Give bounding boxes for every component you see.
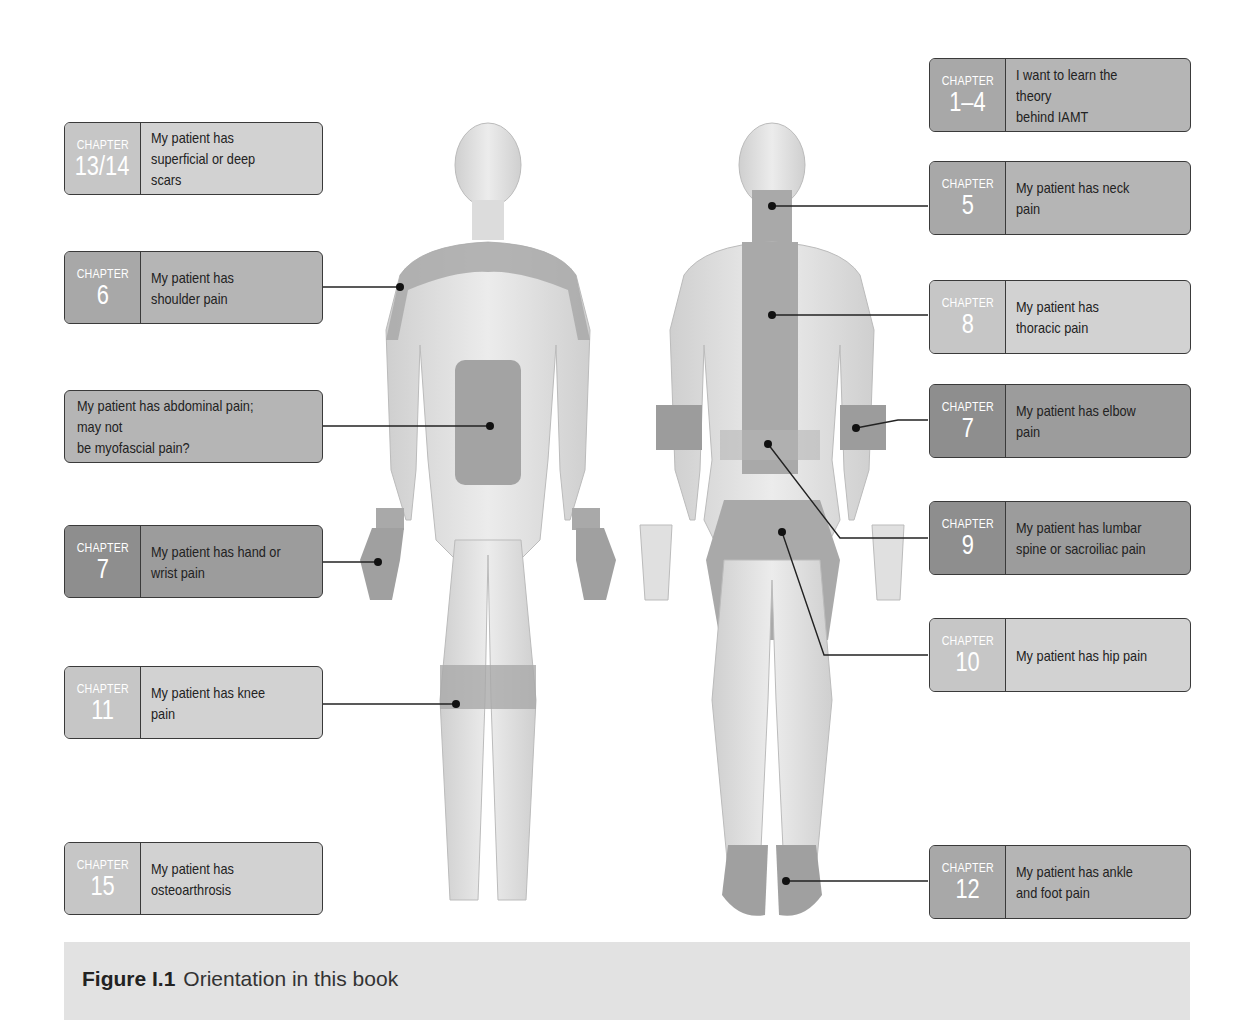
chapter-badge: CHAPTER 10	[930, 619, 1006, 691]
chapter-badge: CHAPTER 15	[65, 843, 141, 914]
caption-text: Orientation in this book	[183, 967, 398, 990]
box-text: My patient has hand or wrist pain	[151, 541, 281, 583]
box-text: My patient has thoracic pain	[1016, 296, 1099, 338]
box-text: I want to learn the theory behind IAMT	[1016, 64, 1155, 127]
chapter-badge: CHAPTER 7	[65, 526, 141, 597]
box-text: My patient has hip pain	[1016, 645, 1147, 666]
chapter-box-lumbar[interactable]: CHAPTER 9 My patient has lumbar spine or…	[929, 501, 1191, 575]
chapter-badge: CHAPTER 7	[930, 385, 1006, 457]
chapter-box-scars[interactable]: CHAPTER 13/14 My patient has superficial…	[64, 122, 323, 195]
chapter-box-knee[interactable]: CHAPTER 11 My patient has knee pain	[64, 666, 323, 739]
chapter-badge: CHAPTER 8	[930, 281, 1006, 353]
chapter-box-neck[interactable]: CHAPTER 5 My patient has neck pain	[929, 161, 1191, 235]
box-text: My patient has superficial or deep scars	[151, 127, 288, 190]
chapter-badge: CHAPTER 6	[65, 252, 141, 323]
chapter-box-osteoarthrosis[interactable]: CHAPTER 15 My patient has osteoarthrosis	[64, 842, 323, 915]
box-text: My patient has abdominal pain; may not b…	[77, 395, 275, 458]
caption-label: Figure I.1	[82, 967, 175, 990]
chapter-box-ankle-foot[interactable]: CHAPTER 12 My patient has ankle and foot…	[929, 845, 1191, 919]
chapter-badge: CHAPTER 12	[930, 846, 1006, 918]
box-text: My patient has shoulder pain	[151, 267, 234, 309]
box-text: My patient has elbow pain	[1016, 400, 1155, 442]
chapter-box-thoracic[interactable]: CHAPTER 8 My patient has thoracic pain	[929, 280, 1191, 354]
box-text: My patient has osteoarthrosis	[151, 858, 234, 900]
chapter-box-abdominal[interactable]: My patient has abdominal pain; may not b…	[64, 390, 323, 463]
chapter-badge: CHAPTER 1–4	[930, 59, 1006, 131]
chapter-box-elbow[interactable]: CHAPTER 7 My patient has elbow pain	[929, 384, 1191, 458]
chapter-box-theory[interactable]: CHAPTER 1–4 I want to learn the theory b…	[929, 58, 1191, 132]
back-body-figure	[640, 123, 904, 916]
chapter-box-hip[interactable]: CHAPTER 10 My patient has hip pain	[929, 618, 1191, 692]
chapter-badge: CHAPTER 5	[930, 162, 1006, 234]
figure-caption: Figure I.1Orientation in this book	[64, 942, 1190, 1020]
box-text: My patient has ankle and foot pain	[1016, 861, 1133, 903]
chapter-box-hand-wrist[interactable]: CHAPTER 7 My patient has hand or wrist p…	[64, 525, 323, 598]
box-text: My patient has lumbar spine or sacroilia…	[1016, 517, 1146, 559]
chapter-badge: CHAPTER 9	[930, 502, 1006, 574]
chapter-badge: CHAPTER 13/14	[65, 123, 141, 194]
orientation-figure: CHAPTER 13/14 My patient has superficial…	[0, 0, 1252, 935]
chapter-box-shoulder[interactable]: CHAPTER 6 My patient has shoulder pain	[64, 251, 323, 324]
box-text: My patient has knee pain	[151, 682, 288, 724]
chapter-badge: CHAPTER 11	[65, 667, 141, 738]
front-body-figure	[360, 123, 616, 900]
box-text: My patient has neck pain	[1016, 177, 1155, 219]
